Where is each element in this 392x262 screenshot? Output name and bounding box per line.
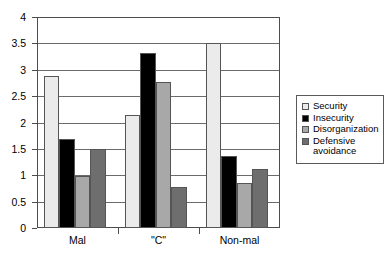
y-axis-tick-label: 3.5: [11, 38, 26, 48]
legend-swatch-icon: [302, 115, 309, 122]
legend-item-label: Disorganization: [313, 124, 378, 135]
bar: [90, 149, 106, 228]
y-axis-tick-label: 1: [20, 170, 26, 180]
bar: [44, 76, 60, 228]
legend-item[interactable]: Disorganization: [302, 124, 379, 135]
y-axis-tick-label: 2.5: [11, 91, 26, 101]
legend-swatch-icon: [302, 126, 309, 133]
x-axis-tick-label: Mal: [37, 234, 118, 246]
legend-item-label: Security: [313, 101, 347, 112]
y-axis-tick-label: 1.5: [11, 144, 26, 154]
bar: [252, 169, 268, 228]
y-axis-tick-mark: [32, 228, 37, 229]
bar: [125, 115, 141, 228]
bar: [59, 139, 75, 228]
legend-swatch-icon: [302, 138, 309, 145]
y-axis-tick-label: 0: [20, 223, 26, 233]
legend-item[interactable]: Security: [302, 101, 379, 112]
legend-item[interactable]: Defensive avoidance: [302, 136, 379, 157]
x-axis-separator: [199, 228, 200, 234]
bar-chart: 00.511.522.533.54 Mal"C"Non-mal Security…: [0, 0, 392, 262]
x-axis-separator: [118, 228, 119, 234]
bar: [75, 176, 91, 228]
y-axis-tick-label: 2: [20, 118, 26, 128]
y-axis-tick-label: 4: [20, 12, 26, 22]
bar: [206, 43, 222, 228]
y-axis: 00.511.522.533.54: [0, 0, 33, 262]
chart-legend: SecurityInsecurityDisorganizationDefensi…: [296, 95, 384, 164]
bars-layer: [37, 17, 280, 228]
y-axis-tick-label: 3: [20, 65, 26, 75]
bar: [140, 53, 156, 228]
bar: [156, 82, 172, 228]
legend-item[interactable]: Insecurity: [302, 113, 379, 124]
bar: [221, 156, 237, 228]
legend-item-label: Insecurity: [313, 113, 354, 124]
y-axis-tick-label: 0.5: [11, 197, 26, 207]
bar: [171, 187, 187, 228]
legend-item-label: Defensive avoidance: [313, 136, 356, 157]
x-axis: Mal"C"Non-mal: [37, 234, 280, 254]
x-axis-tick-label: Non-mal: [199, 234, 280, 246]
legend-swatch-icon: [302, 103, 309, 110]
x-axis-tick-label: "C": [118, 234, 199, 246]
bar: [237, 183, 253, 228]
